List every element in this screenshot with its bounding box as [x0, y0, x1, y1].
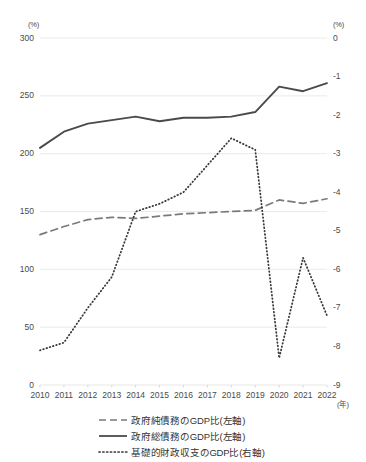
legend-label-net-debt: 政府純債務のGDP比(左軸): [128, 413, 245, 427]
left-tick-0: 0: [4, 380, 34, 390]
legend-label-gross-debt: 政府総債務のGDP比(左軸): [128, 429, 245, 443]
legend-item-gross-debt: 政府総債務のGDP比(左軸): [98, 428, 318, 444]
legend-key-solid: [98, 430, 128, 442]
series-line-1: [40, 199, 327, 235]
left-tick-50: 50: [4, 322, 34, 332]
right-tick-minus7: -7: [333, 302, 363, 312]
legend-key-dashed: [98, 414, 128, 426]
right-tick-minus3: -3: [333, 148, 363, 158]
left-tick-100: 100: [4, 264, 34, 274]
series-line-3: [40, 138, 327, 358]
right-tick-minus8: -8: [333, 341, 363, 351]
left-tick-200: 200: [4, 148, 34, 158]
series-line-2: [40, 83, 327, 148]
left-tick-300: 300: [4, 33, 34, 43]
x-axis-unit-label: (年): [337, 398, 349, 409]
right-tick-minus5: -5: [333, 225, 363, 235]
right-tick-minus1: -1: [333, 71, 363, 81]
right-tick-minus2: -2: [333, 110, 363, 120]
left-tick-150: 150: [4, 206, 34, 216]
left-tick-250: 250: [4, 90, 34, 100]
legend-label-primary-balance: 基礎的財政収支のGDP比(右軸): [128, 445, 265, 459]
right-tick-0: 0: [333, 33, 363, 43]
legend-key-dotted: [98, 446, 128, 458]
right-tick-minus9: -9: [333, 380, 363, 390]
chart-container: (%) (%) 300250200150100500 0-1-2-3-4-5-6…: [0, 0, 366, 462]
right-tick-minus6: -6: [333, 264, 363, 274]
legend-item-net-debt: 政府純債務のGDP比(左軸): [98, 412, 318, 428]
chart-legend: 政府純債務のGDP比(左軸) 政府総債務のGDP比(左軸) 基礎的財政収支のGD…: [98, 412, 318, 460]
right-tick-minus4: -4: [333, 187, 363, 197]
legend-item-primary-balance: 基礎的財政収支のGDP比(右軸): [98, 444, 318, 460]
